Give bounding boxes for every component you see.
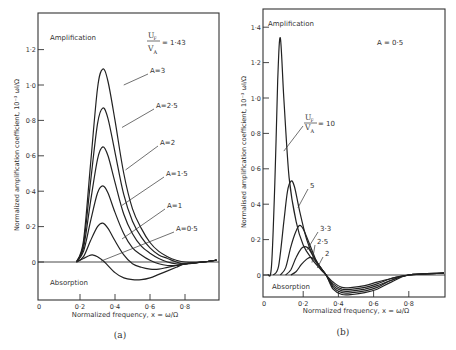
- series-label: A=1·5: [166, 170, 188, 178]
- param-numerator-sub: F: [154, 36, 157, 41]
- param-value: = 1·43: [162, 39, 186, 47]
- fixed-parameter: A = 0·5: [377, 39, 403, 47]
- y-tick-label: 1·2: [251, 59, 261, 67]
- label-leader: [122, 109, 154, 127]
- x-axis-label: Normalized frequency, x = ω/Ω: [303, 307, 409, 315]
- series-label: A=0·5: [176, 225, 198, 233]
- absorption-label: Absorption: [272, 283, 310, 291]
- plot-frame: [263, 9, 445, 297]
- y-tick-label: 0·4: [251, 201, 261, 209]
- series-line: [268, 38, 444, 288]
- y-tick-label: 0·8: [251, 130, 261, 138]
- amplification-label: Amplification: [268, 20, 314, 28]
- param-numerator-sub: F: [311, 118, 314, 123]
- panel-label: (b): [337, 327, 350, 337]
- series-line: [77, 69, 217, 262]
- y-tick-label: 0·2: [251, 236, 261, 244]
- label-leader: [124, 74, 148, 85]
- panel-label: (a): [114, 330, 126, 340]
- series-line: [77, 147, 217, 264]
- figure: 00·20·40·60·81·01·200·20·40·60·8A=3A=2·5…: [0, 0, 456, 350]
- amplification-label: Amplification: [50, 34, 96, 42]
- y-axis-label: Normalised amplification coefficient, 10…: [240, 76, 248, 228]
- plot-frame: [38, 13, 219, 300]
- series-label: A=2: [160, 139, 175, 147]
- series-label: 5: [310, 182, 314, 190]
- panel-b: 00·20·40·60·81·01·21·400·20·40·60·853·32…: [240, 9, 445, 337]
- x-tick-label: 0·2: [75, 303, 85, 311]
- y-tick-label: 0: [257, 272, 261, 280]
- y-tick-label: 0·4: [26, 188, 36, 196]
- series-label: A=1: [167, 202, 182, 210]
- series-label: A=2·5: [156, 102, 178, 110]
- label-leader: [122, 209, 165, 239]
- label-leader: [122, 177, 164, 205]
- series-line: [291, 257, 444, 295]
- y-tick-label: 0·8: [26, 117, 36, 125]
- label-leader: [298, 189, 308, 208]
- y-tick-label: 0·2: [26, 223, 36, 231]
- x-tick-label: 0·4: [110, 303, 120, 311]
- label-leader: [126, 146, 159, 170]
- x-tick-label: 0: [37, 303, 41, 311]
- param-denominator-sub: A: [153, 49, 158, 55]
- y-tick-label: 0·6: [251, 165, 261, 173]
- series-label: 2·5: [317, 238, 328, 246]
- y-axis-label: Normalized amplification coefficient, 10…: [13, 79, 21, 231]
- param-value: = 10: [318, 120, 335, 128]
- panel-a: 00·20·40·60·81·01·200·20·40·60·8A=3A=2·5…: [13, 13, 219, 340]
- y-tick-label: 0·6: [26, 152, 36, 160]
- x-tick-label: 0: [262, 300, 266, 308]
- y-tick-label: 1·4: [251, 24, 261, 32]
- series-label: A=3: [150, 67, 165, 75]
- x-tick-label: 0·6: [145, 303, 155, 311]
- absorption-label: Absorption: [50, 279, 88, 287]
- series-label: 2: [325, 250, 329, 258]
- param-denominator-sub: A: [310, 128, 315, 134]
- y-tick-label: 1·0: [26, 82, 36, 90]
- x-axis-label: Normalized frequency, x = ω/Ω: [72, 311, 178, 319]
- y-tick-label: 0: [32, 259, 36, 267]
- y-tick-label: 1·2: [26, 46, 36, 54]
- series-line: [273, 181, 444, 290]
- series-line: [77, 108, 217, 264]
- x-tick-label: 0·8: [180, 303, 190, 311]
- series-line: [280, 225, 444, 291]
- y-tick-label: 1·0: [251, 95, 261, 103]
- series-label: 3·3: [320, 225, 331, 233]
